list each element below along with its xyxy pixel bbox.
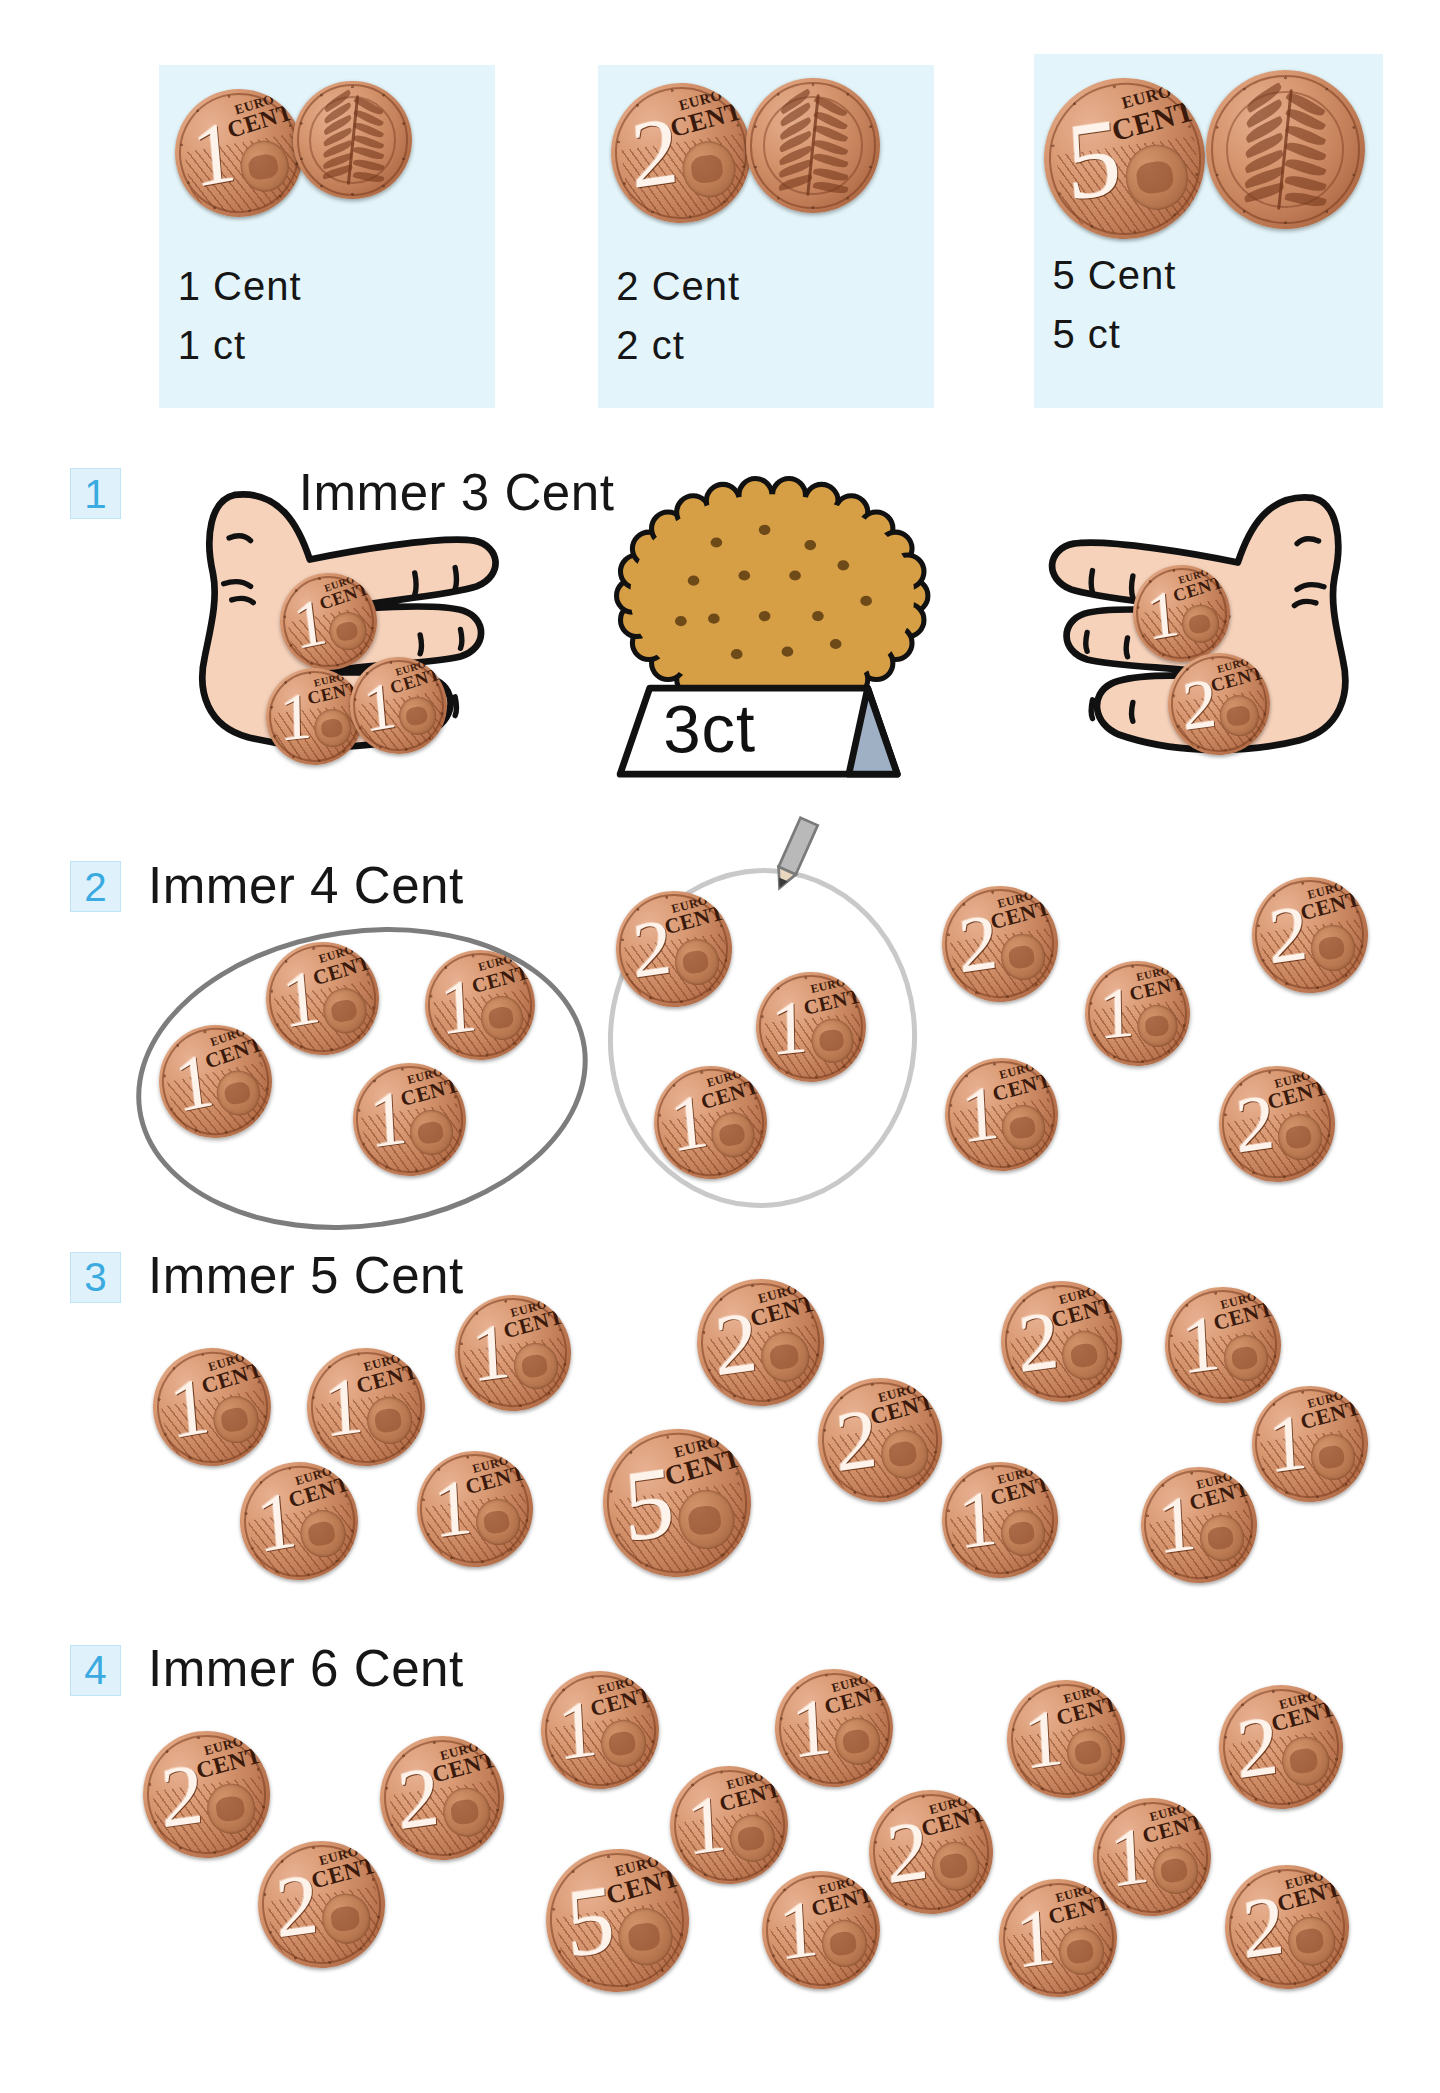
exercise-3-coin-1-cent: 1EUROCENT xyxy=(410,1443,541,1574)
exercise-4-coin-2-cent: 2EUROCENT xyxy=(371,1728,511,1868)
coin-face: 1EUROCENT xyxy=(230,1452,367,1589)
coin-face: 1EUROCENT xyxy=(1244,1379,1375,1510)
coin-face: 2EUROCENT xyxy=(250,1833,393,1976)
exercise-4-coin-1-cent: 1EUROCENT xyxy=(999,1672,1133,1806)
coin-face: 2EUROCENT xyxy=(1162,646,1278,762)
value-panel-name-2: 2 Cent xyxy=(616,264,740,309)
coin-face: 1EUROCENT xyxy=(768,1661,902,1795)
value-panel-abbrev-2: 2 ct xyxy=(616,323,684,368)
exercise-4-coin-5-cent: 5EUROCENT xyxy=(537,1840,698,2001)
exercise-badge-1[interactable]: 1 xyxy=(70,468,121,519)
exercise-3-coin-1-cent: 1EUROCENT xyxy=(1244,1379,1375,1510)
coin-face: 1EUROCENT xyxy=(271,564,386,679)
coin-face: 1EUROCENT xyxy=(533,1664,667,1798)
coin-face: 1EUROCENT xyxy=(299,1341,433,1475)
exercise-2-coin-2-cent: 2EUROCENT xyxy=(935,878,1066,1009)
coin-face: 2EUROCENT xyxy=(810,1370,950,1510)
exercise-2-coin-1-cent: 1EUROCENT xyxy=(937,1050,1065,1178)
exercise-3-coin-1-cent: 1EUROCENT xyxy=(230,1452,367,1589)
exercise-2-coin-2-cent: 2EUROCENT xyxy=(1212,1058,1343,1189)
hand-coin-1-cent: 1EUROCENT xyxy=(271,564,386,679)
exercise-3-coin-1-cent: 1EUROCENT xyxy=(144,1339,281,1476)
euro-stars-icon xyxy=(148,1015,282,1149)
hand-coin-2-cent: 2EUROCENT xyxy=(1162,646,1278,762)
exercise-3-coin-1-cent: 1EUROCENT xyxy=(447,1287,578,1418)
exercise-3-coin-1-cent: 1EUROCENT xyxy=(1158,1279,1289,1410)
coin-face: 2EUROCENT xyxy=(1244,870,1375,1001)
coin-face: 2EUROCENT xyxy=(1211,1677,1351,1817)
exercise-2-coin-1-cent: 1EUROCENT xyxy=(418,943,543,1068)
hand-coin-1-cent: 1EUROCENT xyxy=(342,649,454,761)
value-panel-name-5: 5 Cent xyxy=(1052,253,1176,298)
value-panel-abbrev-5: 5 ct xyxy=(1052,312,1120,357)
coin-face: 1EUROCENT xyxy=(935,1454,1066,1585)
coin-face: 1EUROCENT xyxy=(418,943,543,1068)
coin-face: 1EUROCENT xyxy=(148,1015,282,1149)
exercise-3-coin-2-cent: 2EUROCENT xyxy=(810,1370,950,1510)
coin-face: 2EUROCENT xyxy=(935,878,1066,1009)
exercise-3-coin-5-cent: 5EUROCENT xyxy=(593,1420,760,1587)
coin-face: 2EUROCENT xyxy=(689,1270,832,1413)
exercise-2-coin-1-cent: 1EUROCENT xyxy=(1080,956,1195,1071)
value-panel-abbrev-1: 1 ct xyxy=(178,323,246,368)
exercise-2-coin-1-cent: 1EUROCENT xyxy=(645,1057,776,1188)
coin-face: 5EUROCENT xyxy=(593,1420,760,1587)
exercise-4-coin-2-cent: 2EUROCENT xyxy=(861,1782,1001,1922)
coin-face: 1EUROCENT xyxy=(999,1672,1133,1806)
coin-face: 1EUROCENT xyxy=(1080,956,1195,1071)
coin-face: 1EUROCENT xyxy=(663,1758,797,1892)
coin-face xyxy=(746,78,881,213)
coin-face: 1EUROCENT xyxy=(754,1863,888,1997)
coin-face: 1EUROCENT xyxy=(144,1339,281,1476)
exercise-2-coin-1-cent: 1EUROCENT xyxy=(751,966,872,1087)
exercise-badge-3[interactable]: 3 xyxy=(70,1252,121,1303)
coin-face: 1EUROCENT xyxy=(345,1056,473,1184)
coin-face xyxy=(1206,70,1365,229)
coin-face: 2EUROCENT xyxy=(861,1782,1001,1922)
exercise-2-coin-1-cent: 1EUROCENT xyxy=(148,1015,282,1149)
hand-coin-group: 1EUROCENT1EUROCENT1EUROCENT xyxy=(151,468,582,784)
coin-face: 1EUROCENT xyxy=(410,1443,541,1574)
coin-face: 2EUROCENT xyxy=(609,883,740,1014)
hand-right: 1EUROCENT2EUROCENT xyxy=(966,471,1397,787)
coin-face: 1EUROCENT xyxy=(257,933,388,1064)
exercise-badge-2[interactable]: 2 xyxy=(70,861,121,912)
exercise-title-3: Immer 5 Cent xyxy=(148,1246,464,1305)
exercise-3-coin-2-cent: 2EUROCENT xyxy=(689,1270,832,1413)
euro-stars-icon xyxy=(1206,70,1365,229)
exercise-title-4: Immer 6 Cent xyxy=(148,1639,464,1698)
exercise-4-coin-2-cent: 2EUROCENT xyxy=(134,1723,277,1866)
hand-left: 1EUROCENT1EUROCENT1EUROCENT xyxy=(151,468,582,784)
exercise-4-coin-1-cent: 1EUROCENT xyxy=(533,1664,667,1798)
header-coin-5-reverse xyxy=(1206,70,1365,229)
price-sign: 3ct xyxy=(612,680,901,781)
coin-face: 5EUROCENT xyxy=(537,1840,698,2001)
exercise-4-coin-1-cent: 1EUROCENT xyxy=(663,1758,797,1892)
exercise-4-coin-1-cent: 1EUROCENT xyxy=(768,1661,902,1795)
exercise-3-coin-2-cent: 2EUROCENT xyxy=(993,1273,1130,1410)
coin-face: 1EUROCENT xyxy=(342,649,454,761)
exercise-badge-4[interactable]: 4 xyxy=(70,1645,121,1696)
exercise-2-coin-2-cent: 2EUROCENT xyxy=(609,883,740,1014)
exercise-3-coin-1-cent: 1EUROCENT xyxy=(299,1341,433,1475)
exercise-title-2: Immer 4 Cent xyxy=(148,856,464,915)
coin-face: 1EUROCENT xyxy=(1134,1459,1265,1590)
coin-face xyxy=(293,81,411,199)
hand-coin-group: 1EUROCENT2EUROCENT xyxy=(966,471,1397,787)
coin-face: 2EUROCENT xyxy=(993,1273,1130,1410)
coin-face: 2EUROCENT xyxy=(134,1723,277,1866)
exercise-3-coin-1-cent: 1EUROCENT xyxy=(935,1454,1066,1585)
coin-face: 1EUROCENT xyxy=(1158,1279,1289,1410)
coin-face: 2EUROCENT xyxy=(371,1728,511,1868)
coin-face: 1EUROCENT xyxy=(645,1057,776,1188)
exercise-4-coin-2-cent: 2EUROCENT xyxy=(1217,1857,1357,1997)
coin-face: 2EUROCENT xyxy=(1217,1857,1357,1997)
coin-face: 1EUROCENT xyxy=(447,1287,578,1418)
exercise-4-coin-2-cent: 2EUROCENT xyxy=(250,1833,393,1976)
coin-face: 1EUROCENT xyxy=(937,1050,1065,1178)
price-sign-text: 3ct xyxy=(663,690,757,769)
exercise-3-coin-1-cent: 1EUROCENT xyxy=(1134,1459,1265,1590)
exercise-2-coin-2-cent: 2EUROCENT xyxy=(1244,870,1375,1001)
euro-stars-icon xyxy=(293,81,411,199)
euro-stars-icon xyxy=(746,78,881,213)
